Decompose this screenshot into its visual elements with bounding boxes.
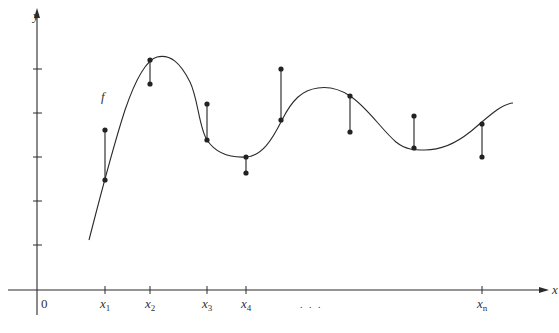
x4-label: x4 [240,296,252,313]
x3-label: x3 [201,296,213,313]
x1-label: x1 [99,296,110,313]
y-axis-label: y [31,8,39,23]
function-residual-diagram: y x 0 f x1 x2 x3 x4 xn . . . [0,0,559,333]
function-curve [89,56,513,240]
xn-label: xn [476,296,488,313]
ellipsis-label: . . . [300,299,323,310]
origin-label: 0 [41,296,48,311]
x-axis-arrow-icon [539,287,549,293]
x-tick-labels: x1 x2 x3 x4 xn [99,296,488,313]
x2-label: x2 [144,296,155,313]
function-label: f [101,89,107,104]
data-points [102,57,484,182]
x-axis-label: x [551,282,558,297]
residual-segments [105,60,482,180]
